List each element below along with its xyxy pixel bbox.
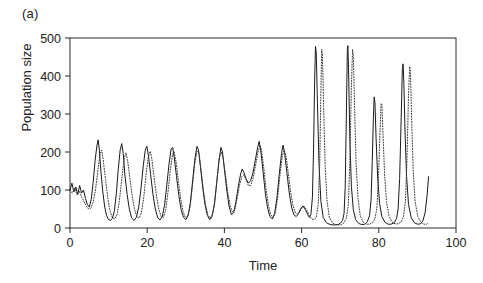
x-tick-label: 40 <box>217 236 231 250</box>
x-tick-label: 100 <box>446 236 467 250</box>
figure-panel-a: (a) Population size Time 020406080100010… <box>0 0 483 283</box>
series-line-dotted <box>70 49 429 225</box>
y-tick-label: 100 <box>40 184 61 198</box>
x-tick-label: 0 <box>67 236 74 250</box>
x-tick-label: 80 <box>372 236 386 250</box>
x-tick-label: 20 <box>140 236 154 250</box>
chart-plot: 0204060801000100200300400500 <box>0 0 483 283</box>
x-tick-label: 60 <box>295 236 309 250</box>
y-tick-label: 0 <box>54 222 61 236</box>
y-tick-label: 300 <box>40 108 61 122</box>
y-tick-label: 200 <box>40 146 61 160</box>
series-line-solid <box>70 46 429 225</box>
y-tick-label: 500 <box>40 32 61 46</box>
axis-ticks: 0204060801000100200300400500 <box>40 32 466 251</box>
y-tick-label: 400 <box>40 70 61 84</box>
data-series-group <box>70 46 429 225</box>
